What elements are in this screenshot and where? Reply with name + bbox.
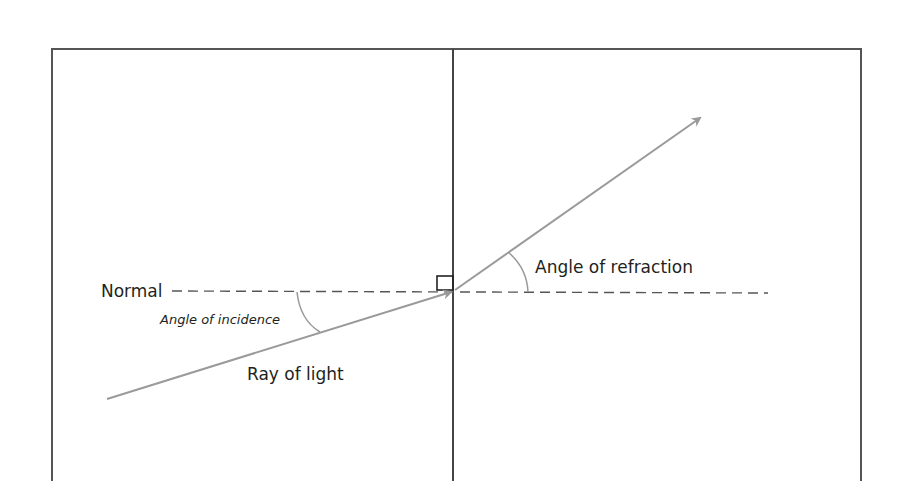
refraction-arc [508,252,528,292]
frame-left-top-right [52,49,861,481]
normal-label: Normal [101,281,163,301]
incidence-arc [297,292,320,332]
refraction-diagram: Normal Angle of incidence Ray of light A… [0,0,900,481]
angle-of-incidence-label: Angle of incidence [159,312,280,327]
angle-of-refraction-label: Angle of refraction [535,257,693,277]
normal-line [172,291,768,293]
ray-of-light-label: Ray of light [247,364,344,384]
right-angle-marker [437,276,453,290]
